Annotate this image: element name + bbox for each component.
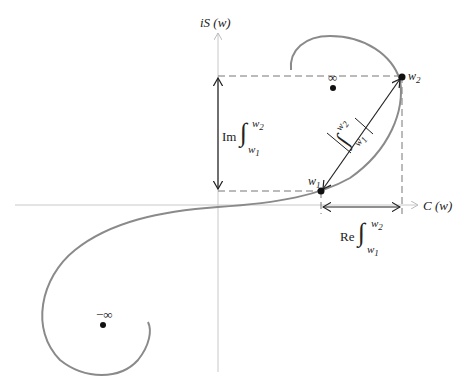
y-axis-label: iS (w) (200, 16, 231, 29)
w2-label-base: w (408, 69, 416, 83)
x-axis-label: C (w) (423, 199, 452, 212)
neg-infinity-point (100, 322, 106, 328)
im-prefix: Im (222, 130, 236, 143)
integral-sign: ∫ (332, 132, 353, 150)
w2-label-sub: 2 (416, 75, 421, 85)
integral-sign: ∫ (358, 220, 365, 246)
im-lower-limit: w1 (248, 144, 260, 155)
neg-infinity-label: −∞ (96, 308, 113, 321)
integral-sign: ∫ (240, 120, 247, 146)
w1-label-base: w (308, 174, 316, 188)
re-lower-limit: w1 (367, 244, 379, 255)
abs-upper-limit: w2 (334, 118, 349, 133)
re-integral-label: Re ∫ w2 w1 (340, 218, 400, 268)
im-integral-label: Im ∫ w2 w1 (222, 118, 282, 168)
re-upper-limit: w2 (371, 218, 383, 229)
abs-lower-limit: w1 (352, 133, 367, 148)
re-prefix: Re (340, 230, 354, 243)
w2-point (399, 74, 406, 81)
w2-label: w2 (408, 70, 421, 82)
w1-label-sub: 1 (316, 180, 321, 190)
im-upper-limit: w2 (252, 118, 264, 129)
w1-label: w1 (308, 175, 321, 187)
pos-infinity-label: ∞ (328, 71, 337, 84)
cornu-spiral-diagram (0, 0, 472, 392)
pos-infinity-point (330, 85, 336, 91)
